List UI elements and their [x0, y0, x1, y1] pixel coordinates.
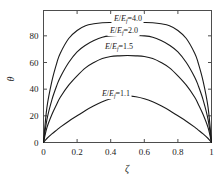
curve-label-2: E/Ef=2.0 — [109, 26, 138, 36]
curve-label-4: E/Ef=4.0 — [113, 14, 142, 24]
data-curve-4 — [44, 22, 212, 142]
curve-label-1.1: E/Ef=1.1 — [101, 89, 130, 99]
y-tick-label: 20 — [30, 111, 40, 121]
y-axis-title: θ — [5, 76, 16, 81]
x-tick-label: 0.4 — [105, 147, 117, 157]
y-tick-label: 60 — [30, 58, 40, 68]
data-curves — [44, 22, 212, 142]
x-axis-title: ζ — [125, 163, 130, 175]
x-tick-label: 0.8 — [172, 147, 184, 157]
y-tick-label: 80 — [30, 31, 40, 41]
x-tick-label: 0 — [41, 147, 46, 157]
y-tick-label: 40 — [30, 84, 40, 94]
chart-figure: 00.20.40.60.81020406080 E/Ef=4.0E/Ef=2.0… — [0, 0, 223, 176]
x-tick-label: 0.6 — [139, 147, 151, 157]
data-curve-1.1 — [44, 96, 212, 143]
x-tick-label: 0.2 — [71, 147, 82, 157]
curve-label-1.5: E/Ef=1.5 — [104, 42, 133, 52]
x-tick-label: 1 — [209, 147, 214, 157]
y-tick-label: 0 — [34, 138, 39, 148]
chart-plot-area: 00.20.40.60.81020406080 E/Ef=4.0E/Ef=2.0… — [0, 0, 223, 176]
